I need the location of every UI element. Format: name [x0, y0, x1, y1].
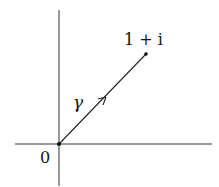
origin-label: 0 [40, 148, 50, 167]
origin-point [57, 142, 61, 146]
path-label: γ [73, 92, 84, 112]
arrow-icon [98, 97, 106, 105]
endpoint-point [144, 52, 148, 56]
complex-plane-diagram: 0 1 + i γ [0, 0, 219, 187]
endpoint-label: 1 + i [124, 30, 163, 49]
